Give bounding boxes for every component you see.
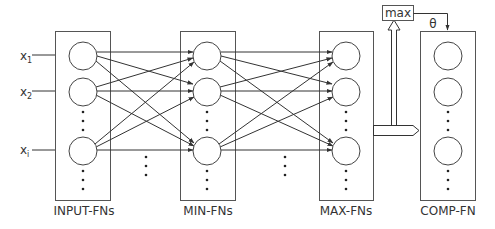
max-box: max	[383, 6, 414, 21]
input-fns-label: INPUT-FNs	[53, 204, 114, 218]
min-to-max-connections	[219, 52, 333, 150]
max-to-comp-wide-arrow	[374, 20, 420, 136]
max-fns-label: MAX-FNs	[320, 204, 373, 218]
theta-label: θ	[429, 17, 436, 31]
input-x1-label: x1	[20, 49, 32, 65]
svg-text:x2: x2	[20, 85, 32, 101]
svg-text:xi: xi	[20, 143, 29, 159]
comp-fn-label: COMP-FN	[420, 204, 475, 218]
input-x2-label: x2	[20, 85, 32, 101]
input-xi-label: xi	[20, 143, 29, 159]
fuzzy-network-diagram: x1 x2 xi	[0, 0, 495, 229]
min-fns-label: MIN-FNs	[183, 204, 232, 218]
svg-text:x1: x1	[20, 49, 32, 65]
svg-text:max: max	[385, 6, 411, 20]
